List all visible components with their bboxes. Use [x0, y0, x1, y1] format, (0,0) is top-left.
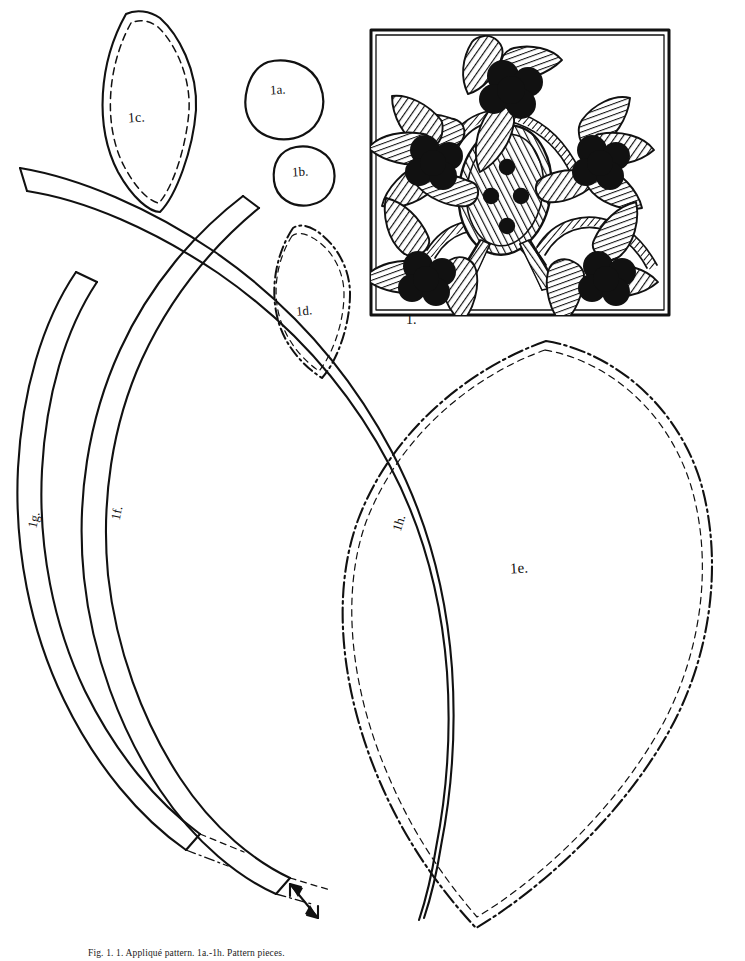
flower-cluster-left — [405, 135, 463, 190]
label-1e: 1e. — [510, 560, 529, 578]
label-design-1: 1. — [406, 312, 417, 328]
label-1g: 1g. — [25, 510, 44, 529]
label-1d: 1d. — [295, 302, 313, 319]
label-1c: 1c. — [127, 109, 145, 126]
pattern-sheet: 1c. 1a. 1b. 1d. 1e. 1f. 1g. 1h. 1. Fig. … — [0, 0, 745, 961]
flower-cluster-bottom-left — [398, 251, 456, 306]
pattern-drawing — [0, 0, 745, 961]
piece-1f-outline — [82, 196, 330, 904]
label-1a: 1a. — [270, 82, 286, 99]
flower-cluster-bottom-right — [578, 251, 636, 306]
label-1b: 1b. — [292, 164, 309, 181]
piece-1e-outline — [343, 341, 712, 928]
piece-1g-outline — [17, 272, 244, 866]
figure-caption: Fig. 1. 1. Appliqué pattern. 1a.-1h. Pat… — [88, 948, 285, 958]
flower-cluster-right — [572, 135, 630, 190]
piece-1c-outline — [103, 11, 197, 212]
piece-1a-outline — [246, 61, 324, 140]
label-1f: 1f. — [108, 504, 127, 521]
embroidery-design — [364, 30, 669, 324]
